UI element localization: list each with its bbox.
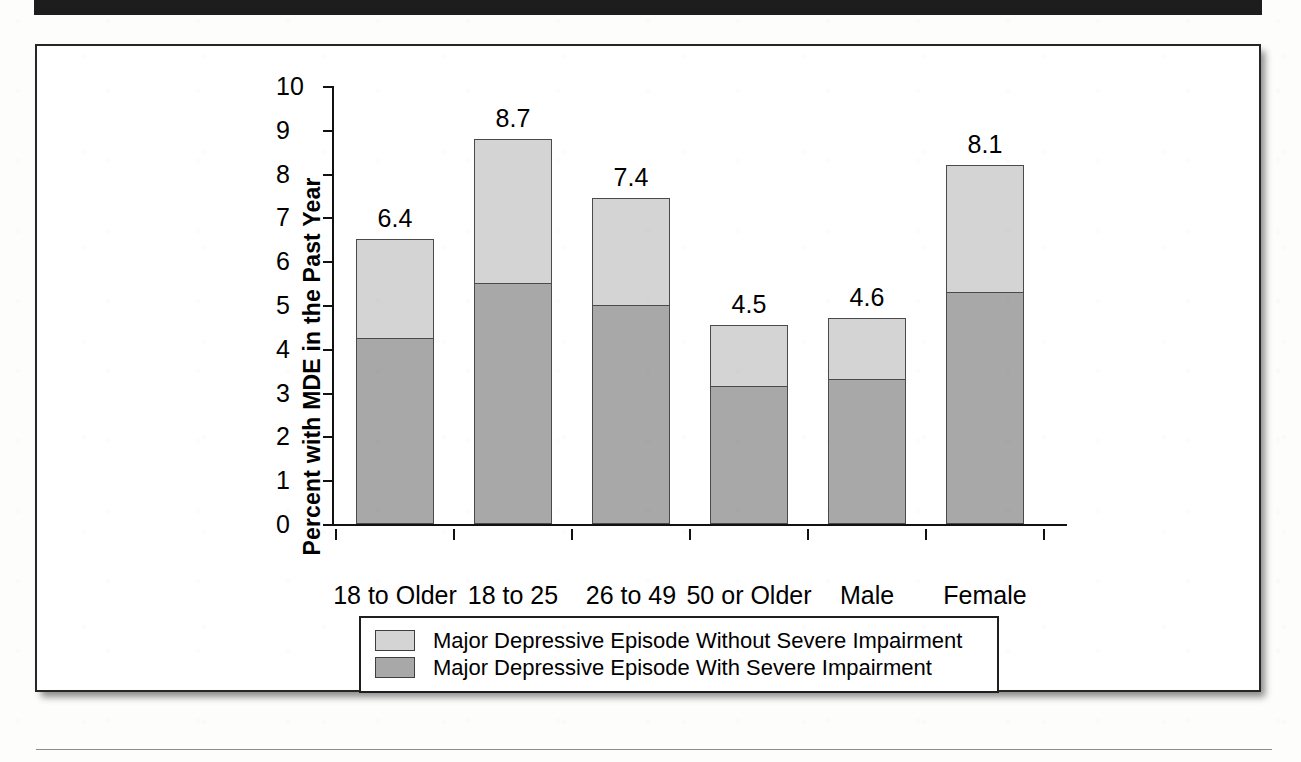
bar-value-label: 6.4 <box>378 206 413 231</box>
y-axis-tick <box>323 393 332 395</box>
y-axis-tick-label: 10 <box>276 74 304 99</box>
x-axis-label-50-or-older: 50 or Older <box>686 583 811 608</box>
bar-value-label: 4.6 <box>850 285 885 310</box>
bar-segment-with-severe-impairment[interactable] <box>946 292 1024 524</box>
y-axis-tick-label: 6 <box>276 249 304 274</box>
bar-segment-without-severe-impairment[interactable] <box>946 165 1024 293</box>
chart-legend: Major Depressive Episode Without Severe … <box>359 616 999 693</box>
bar-value-label: 8.1 <box>968 132 1003 157</box>
y-axis-tick <box>323 261 332 263</box>
x-axis-tick <box>689 529 691 540</box>
bar-segment-with-severe-impairment[interactable] <box>356 338 434 524</box>
y-axis-tick <box>323 524 332 526</box>
y-axis-tick <box>323 130 332 132</box>
bar-value-label: 7.4 <box>614 165 649 190</box>
y-axis-tick-label: 9 <box>276 117 304 142</box>
x-axis-tick <box>571 529 573 540</box>
plot-area: 012345678910 6.48.77.44.54.68.1 18 to Ol… <box>332 86 1092 524</box>
x-axis-label-26-to-49: 26 to 49 <box>586 583 676 608</box>
y-axis-tick-label: 7 <box>276 205 304 230</box>
y-axis-tick <box>323 480 332 482</box>
x-axis-label-female: Female <box>943 583 1026 608</box>
legend-item[interactable]: Major Depressive Episode Without Severe … <box>375 627 983 654</box>
legend-item-label: Major Depressive Episode With Severe Imp… <box>433 657 932 679</box>
bar-segment-without-severe-impairment[interactable] <box>474 139 552 285</box>
x-axis-label-male: Male <box>840 583 894 608</box>
bar-male[interactable] <box>828 318 906 524</box>
x-axis-tick <box>807 529 809 540</box>
legend-swatch-icon <box>375 630 415 651</box>
x-axis-tick <box>453 529 455 540</box>
y-axis-tick <box>323 86 332 88</box>
bar-segment-without-severe-impairment[interactable] <box>828 318 906 380</box>
page-canvas: Percent with MDE in the Past Year 012345… <box>0 0 1301 762</box>
x-axis-label-18-to-older: 18 to Older <box>333 583 457 608</box>
y-axis-tick-label: 1 <box>276 468 304 493</box>
y-axis-tick <box>323 349 332 351</box>
bar-segment-with-severe-impairment[interactable] <box>710 386 788 524</box>
chart-figure-box: Percent with MDE in the Past Year 012345… <box>35 44 1261 692</box>
x-axis-label-18-to-25: 18 to 25 <box>468 583 558 608</box>
y-axis-tick-label: 5 <box>276 293 304 318</box>
x-axis-tick <box>335 529 337 540</box>
bar-female[interactable] <box>946 165 1024 524</box>
bar-segment-with-severe-impairment[interactable] <box>592 305 670 524</box>
bar-segment-without-severe-impairment[interactable] <box>592 198 670 306</box>
x-axis-tick <box>925 529 927 540</box>
bar-18-to-25[interactable] <box>474 139 552 524</box>
y-axis-tick-label: 3 <box>276 380 304 405</box>
bar-segment-with-severe-impairment[interactable] <box>474 283 552 524</box>
page-footer-rule <box>36 749 1272 750</box>
legend-item[interactable]: Major Depressive Episode With Severe Imp… <box>375 654 983 681</box>
y-axis-tick-label: 8 <box>276 161 304 186</box>
legend-item-label: Major Depressive Episode Without Severe … <box>433 630 962 652</box>
y-axis-title-text: Percent with MDE in the Past Year <box>299 177 326 555</box>
page-header-bar <box>34 0 1262 15</box>
y-axis-tick <box>323 217 332 219</box>
bar-value-label: 4.5 <box>732 292 767 317</box>
bar-segment-with-severe-impairment[interactable] <box>828 379 906 524</box>
x-axis-line <box>332 524 1067 526</box>
y-axis-tick <box>323 305 332 307</box>
bar-segment-without-severe-impairment[interactable] <box>356 239 434 339</box>
y-axis-tick-label: 0 <box>276 512 304 537</box>
y-axis-tick <box>323 436 332 438</box>
bar-18-to-older[interactable] <box>356 239 434 524</box>
y-axis-line <box>332 86 334 524</box>
bar-50-or-older[interactable] <box>710 325 788 524</box>
x-axis-tick <box>1043 529 1045 540</box>
bar-26-to-49[interactable] <box>592 198 670 524</box>
y-axis-tick <box>323 174 332 176</box>
bar-value-label: 8.7 <box>496 106 531 131</box>
y-axis-tick-label: 2 <box>276 424 304 449</box>
y-axis-tick-label: 4 <box>276 336 304 361</box>
legend-swatch-icon <box>375 657 415 678</box>
bar-segment-without-severe-impairment[interactable] <box>710 325 788 387</box>
